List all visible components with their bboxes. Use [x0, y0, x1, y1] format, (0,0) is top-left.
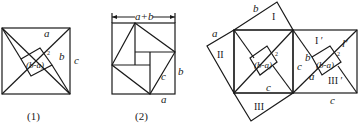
label-inner-exp: 2 [47, 50, 50, 56]
label-region-I-prime: I ′ [315, 35, 323, 46]
label-b: b [59, 50, 65, 62]
outer-square [112, 23, 175, 94]
label-b-right: b [305, 51, 311, 63]
square-I [234, 2, 293, 30]
label-a: a [44, 27, 50, 39]
figure-1: a b c (b-a) 2 (1) [2, 27, 79, 123]
label-inner-area: (b-a) [26, 60, 44, 70]
pythagorean-proof-diagram: a b c (b-a) 2 (1) a+b c b a (2) [0, 0, 363, 129]
label-region-III-prime: III ′ [328, 75, 343, 86]
label-c-bottom-center: c [266, 81, 271, 93]
tilted-square [112, 23, 175, 94]
arrow-right-icon [170, 15, 175, 19]
label-inner-left: (b-a) [254, 60, 272, 70]
caption-1: (1) [27, 110, 40, 123]
caption-2: (2) [135, 110, 148, 123]
arrow-left-icon [112, 15, 117, 19]
label-c-bottom-right: c [330, 94, 335, 106]
figure-3: b I a II III (b-a) 2 c c I ′ l′ b a (b-a… [207, 2, 357, 121]
label-b-top: b [253, 2, 259, 14]
label-inner-left-exp: 2 [275, 51, 278, 57]
label-region-II: II [217, 49, 224, 60]
label-a-right: a [309, 70, 315, 82]
label-region-I: I [272, 11, 275, 22]
label-inner-right: (b-a) [316, 60, 334, 70]
figure-2: a+b c b a (2) [112, 10, 184, 123]
label-a-plus-b: a+b [135, 10, 154, 22]
label-inner-right-exp: 2 [337, 51, 340, 57]
label-c-mid: c [297, 60, 302, 72]
label-l-prime: l′ [342, 37, 348, 49]
label-a-left: a [212, 27, 218, 39]
label-b: b [178, 65, 184, 77]
edge-line [273, 66, 293, 93]
label-c: c [161, 70, 166, 82]
label-c: c [74, 54, 79, 66]
label-a: a [161, 93, 167, 105]
square-II [207, 30, 234, 93]
label-region-III: III [254, 101, 264, 112]
edge-line [234, 30, 254, 58]
